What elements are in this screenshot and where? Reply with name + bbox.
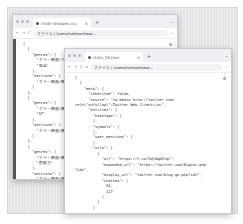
address-bar-row: ← → C ファイル | /Users/kuhmanikesa... ☆ — [13, 28, 177, 39]
url-field[interactable]: ファイル | /Users/kuhmanikesa... — [34, 30, 168, 37]
file-icon — [88, 56, 91, 59]
gear-icon[interactable]: ⚙ — [223, 76, 226, 81]
reload-icon[interactable]: C — [80, 65, 83, 69]
window-controls[interactable] — [68, 54, 81, 57]
chevron-down-icon[interactable]: ⌄ — [171, 19, 174, 24]
new-tab-button[interactable]: + — [95, 19, 99, 25]
star-icon[interactable]: ☆ — [171, 31, 174, 35]
file-icon — [36, 22, 39, 25]
tab-csv[interactable]: tmdn-shopper.csv× — [33, 18, 91, 28]
front-browser-window[interactable]: stats_16.json× + ⌄ ← → C ⌂ ファイル | /Users… — [64, 48, 232, 214]
gear-icon[interactable]: ⚙ — [169, 42, 172, 47]
star-icon[interactable]: ☆ — [225, 65, 228, 69]
window-controls[interactable] — [16, 20, 29, 23]
json-content: ⚙[ { "meta": { "inherited": false, "sour… — [65, 73, 231, 211]
tab-bar: stats_16.json× + ⌄ — [65, 49, 231, 62]
back-icon[interactable]: ← — [68, 65, 71, 69]
back-icon[interactable]: ← — [16, 31, 19, 35]
forward-icon[interactable]: → — [22, 31, 25, 35]
forward-icon[interactable]: → — [74, 65, 77, 69]
home-icon[interactable]: ⌂ — [86, 65, 88, 69]
reload-icon[interactable]: C — [28, 31, 31, 35]
chevron-down-icon[interactable]: ⌄ — [225, 53, 228, 58]
url-field[interactable]: ファイル | /Users/kuhmanikesa... — [91, 64, 222, 71]
tab-json[interactable]: stats_16.json× — [85, 52, 143, 62]
address-bar-row: ← → C ⌂ ファイル | /Users/kuhmanikesa... ☆ — [65, 62, 231, 73]
code-line: ] — [75, 206, 231, 211]
tab-bar: tmdn-shopper.csv× + ⌄ — [13, 15, 177, 28]
new-tab-button[interactable]: + — [147, 53, 151, 59]
